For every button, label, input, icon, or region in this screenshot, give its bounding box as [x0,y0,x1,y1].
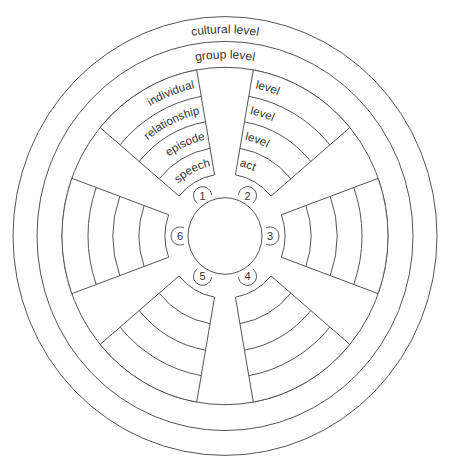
bubble-number: 4 [244,270,250,282]
concentric-levels-wheel: cultural level group level speech episod… [0,0,449,466]
bubble-6: 6 [171,227,184,245]
central-hub [188,198,262,275]
sector-outline [281,178,388,293]
bubble-number: 3 [267,230,273,242]
sector-outline [62,178,169,293]
sector-4 [235,276,349,402]
numbered-bubbles: 123456 [171,187,279,286]
sector-6 [62,178,169,293]
group-level-label: group level [194,47,256,64]
bubble-1: 1 [194,187,212,203]
bubble-2: 2 [239,187,257,203]
bubble-4: 4 [239,269,257,285]
sector-5 [100,276,214,402]
sector-3 [281,178,388,293]
cultural-level-label: cultural level [190,22,260,39]
hub-circle [188,198,262,275]
bubble-3: 3 [266,227,279,245]
bubble-number: 2 [244,190,250,202]
bubble-number: 5 [199,270,205,282]
bubble-number: 6 [177,230,183,242]
bubble-number: 1 [199,190,205,202]
sector-outline [100,276,214,402]
bubble-5: 5 [194,269,212,285]
sectors [62,70,388,402]
sector-outline [235,276,349,402]
